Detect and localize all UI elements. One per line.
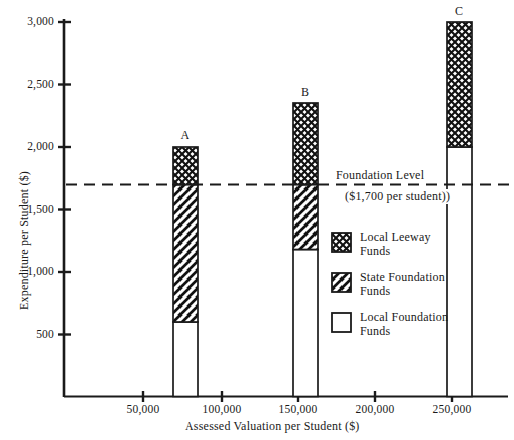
chart-canvas — [0, 0, 514, 440]
x-tick-label-150000: 150,000 — [258, 403, 338, 415]
legend-swatch-local-leeway — [332, 233, 351, 252]
bar-a-local-foundation — [173, 322, 198, 397]
bar-c — [447, 22, 472, 397]
legend-label-state-foundation-line1: State Foundation — [360, 271, 445, 284]
bar-b-local-foundation — [293, 250, 318, 397]
foundation-level-annotation-title: Foundation Level — [334, 168, 426, 183]
x-tick-label-100000: 100,000 — [182, 403, 262, 415]
legend-label-local-leeway-line1: Local Leeway — [360, 231, 431, 244]
bar-label-a: A — [155, 128, 215, 143]
legend-swatch-state-foundation — [332, 273, 351, 292]
x-tick-label-250000: 250,000 — [412, 403, 492, 415]
bar-b-local-leeway — [293, 103, 318, 185]
foundation-level-annotation-value: ($1,700 per student)) — [343, 189, 452, 204]
bar-label-c: C — [429, 4, 489, 19]
legend-label-state-foundation-line2: Funds — [360, 285, 390, 298]
y-tick-label-3000: 3,000 — [6, 15, 54, 27]
legend-swatches — [332, 233, 351, 332]
bar-b — [293, 103, 318, 397]
y-tick-label-2500: 2,500 — [6, 78, 54, 90]
bar-a-state-foundation — [173, 185, 198, 323]
bar-label-b: B — [275, 85, 335, 100]
legend-swatch-local-foundation — [332, 313, 351, 332]
x-axis-title: Assessed Valuation per Student ($) — [185, 419, 360, 434]
chart-figure: 3,000 2,500 2,000 1,500 1,000 500 50,000… — [0, 0, 514, 440]
legend-label-local-foundation-line1: Local Foundation — [360, 311, 448, 324]
y-tick-label-500: 500 — [6, 328, 54, 340]
x-tick-label-200000: 200,000 — [335, 403, 415, 415]
bar-a-local-leeway — [173, 147, 198, 185]
y-axis-title: Expenditure per Student ($) — [17, 171, 32, 310]
axes — [64, 19, 508, 397]
bar-c-local-leeway — [447, 22, 472, 147]
legend-label-local-foundation-line2: Funds — [360, 325, 390, 338]
x-tick-label-50000: 50,000 — [103, 403, 183, 415]
y-tick-label-2000: 2,000 — [6, 140, 54, 152]
bar-b-state-foundation — [293, 185, 318, 250]
legend-label-local-leeway-line2: Funds — [360, 245, 390, 258]
